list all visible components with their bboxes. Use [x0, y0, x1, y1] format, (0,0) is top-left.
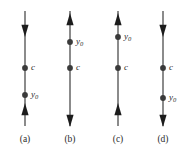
point-label-base: c — [169, 62, 173, 72]
panel-caption-d: (d) — [143, 135, 183, 145]
point-dot-d-y0 — [160, 95, 166, 101]
point-label-subscript: 0 — [173, 96, 176, 103]
four-panel-axis-figure: cy0(a)y0c(b)y0c(c)cy0(d) — [0, 0, 187, 152]
arrowhead-down-bottom-d — [159, 115, 166, 127]
axis-graphic-d — [0, 0, 187, 152]
point-label-d-c: c — [169, 63, 173, 72]
panel-d: cy0(d) — [0, 0, 187, 152]
point-label-d-y0: y0 — [169, 93, 176, 102]
arrowhead-down-top-d — [159, 25, 166, 37]
point-dot-d-c — [160, 65, 166, 71]
